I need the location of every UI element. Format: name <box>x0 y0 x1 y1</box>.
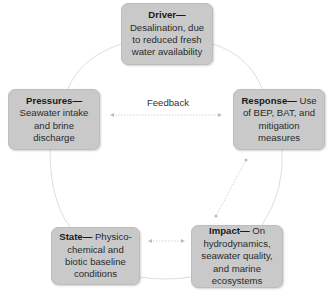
connector-driver-pressures <box>68 44 121 89</box>
feedback-arrowhead-left-icon <box>110 113 114 117</box>
response-impact-arrowhead-bottom-icon <box>214 214 217 217</box>
feedback-arrowhead-right-icon <box>218 113 222 117</box>
pressures-title: Pressures— <box>26 95 82 106</box>
state-impact-arrowhead-left-icon <box>148 239 152 243</box>
impact-title: Impact— <box>209 225 250 236</box>
response-title: Response— <box>241 95 296 106</box>
connector-state-impact <box>140 277 191 279</box>
state-title: State— <box>59 231 92 242</box>
connector-response-driver <box>213 44 262 89</box>
response-impact-arrow <box>216 160 246 216</box>
feedback-label: Feedback <box>135 97 201 108</box>
state-node: State— Physico-chemical and biotic basel… <box>51 227 140 285</box>
pressures-text: Seawater intake and brine discharge <box>20 107 89 143</box>
response-node: Response— Use of BEP, BAT, and mitigatio… <box>233 89 325 150</box>
pressures-node: Pressures— Seawater intake and brine dis… <box>8 89 100 150</box>
connector-pressures-state <box>50 150 70 227</box>
response-impact-arrowhead-top-icon <box>244 158 247 161</box>
driver-text: Desalination, due to reduced fresh water… <box>130 22 204 58</box>
state-impact-arrowhead-right-icon <box>181 239 185 243</box>
driver-title: Driver— <box>148 9 185 20</box>
connector-impact-response <box>262 150 282 225</box>
dpsir-diagram: Driver— Desalination, due to reduced fre… <box>0 0 328 291</box>
driver-node: Driver— Desalination, due to reduced fre… <box>121 3 213 65</box>
impact-node: Impact— On hydrodynamics, seawater quali… <box>191 225 283 288</box>
